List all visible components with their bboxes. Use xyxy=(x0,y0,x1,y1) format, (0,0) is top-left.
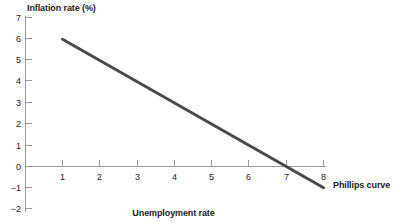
x-tick-label: 3 xyxy=(135,172,140,182)
y-tick-label: 6 xyxy=(16,34,21,44)
x-tick-label: 1 xyxy=(60,172,65,182)
x-axis-tick-labels: 1 2 3 4 5 6 7 8 xyxy=(60,172,326,182)
y-axis-ticks xyxy=(26,18,33,209)
y-tick-label: 2 xyxy=(16,119,21,129)
y-tick-label: −1 xyxy=(11,183,21,193)
x-axis-title: Unemployment rate xyxy=(0,208,347,218)
y-tick-label: 4 xyxy=(16,76,21,86)
x-tick-label: 4 xyxy=(172,172,177,182)
x-tick-label: 2 xyxy=(97,172,102,182)
y-tick-label: 3 xyxy=(16,98,21,108)
phillips-curve-label: Phillips curve xyxy=(333,180,390,190)
y-tick-label: 5 xyxy=(16,55,21,65)
plot-area: 7 6 5 4 3 2 1 0 −1 −2 1 2 3 4 xyxy=(0,0,407,224)
x-tick-label: 7 xyxy=(284,172,289,182)
y-tick-label: 1 xyxy=(16,141,21,151)
x-tick-label: 8 xyxy=(321,172,326,182)
y-tick-label: 7 xyxy=(16,13,21,23)
x-tick-label: 6 xyxy=(246,172,251,182)
y-tick-label: 0 xyxy=(16,162,21,172)
phillips-curve-line xyxy=(63,39,324,187)
phillips-curve-chart: Inflation rate (%) 7 6 5 4 3 2 1 0 xyxy=(0,0,407,224)
x-tick-label: 5 xyxy=(209,172,214,182)
y-axis-tick-labels: 7 6 5 4 3 2 1 0 −1 −2 xyxy=(11,13,21,214)
